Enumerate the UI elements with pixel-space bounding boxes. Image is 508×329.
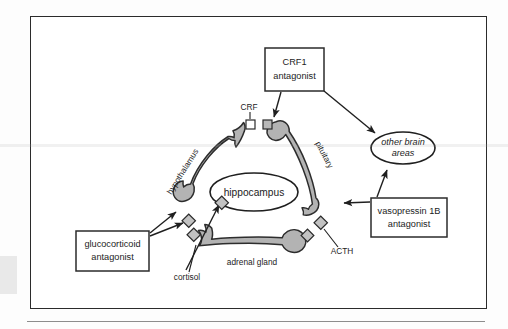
arrow-glucocorticoid-to-hypothalamus-upper xyxy=(150,212,176,233)
arrow-vasopressin-to-other-brain xyxy=(377,170,387,197)
callout-crf1-antagonist[interactable]: CRF1 antagonist xyxy=(265,48,324,91)
receptor-square-crf-right xyxy=(263,120,272,129)
hippocampus-label: hippocampus xyxy=(224,187,285,198)
arrow-vasopressin-to-pituitary xyxy=(344,202,370,203)
acth-label: ACTH xyxy=(331,246,354,256)
signal-crf: CRF xyxy=(240,102,257,119)
organ-label-pituitary: pituitary xyxy=(313,139,336,170)
crf1-antagonist-label-line1: CRF1 xyxy=(283,57,307,67)
glucocorticoid-antagonist-label-line1: glucocorticoid xyxy=(84,239,140,249)
crf1-antagonist-label-line2: antagonist xyxy=(273,71,316,81)
vasopressin-antagonist-label-line2: antagonist xyxy=(388,219,431,229)
acth-leader-line xyxy=(324,229,338,247)
node-other-brain-areas: other brain areas xyxy=(371,132,435,164)
page-canvas: hypothalamus pituitary adrenal gland hip… xyxy=(0,0,508,329)
arrow-crf1-to-pituitary xyxy=(274,92,281,117)
glucocorticoid-antagonist-label-line2: antagonist xyxy=(91,252,134,262)
callout-glucocorticoid-antagonist[interactable]: glucocorticoid antagonist xyxy=(76,231,149,271)
page-horizontal-rule xyxy=(27,321,485,322)
signal-acth: ACTH xyxy=(324,229,353,256)
receptor-diamond-hypothalamus-base xyxy=(182,214,195,227)
callout-vasopressin-1b-antagonist[interactable]: vasopressin 1B antagonist xyxy=(371,198,447,237)
receptor-diamond-acth xyxy=(314,216,327,229)
organ-adrenal-gland: adrenal gland xyxy=(198,225,305,267)
other-brain-areas-label-line1: other brain xyxy=(381,137,424,147)
crf-label: CRF xyxy=(240,102,257,112)
vasopressin-antagonist-label-line1: vasopressin 1B xyxy=(378,206,441,216)
cortisol-label: cortisol xyxy=(174,272,200,282)
other-brain-areas-label-line2: areas xyxy=(392,148,415,158)
arrow-crf1-to-other-brain xyxy=(324,91,375,133)
cortisol-leader-line xyxy=(189,245,196,272)
receptor-square-crf-left xyxy=(246,120,255,129)
hpa-axis-diagram: hypothalamus pituitary adrenal gland hip… xyxy=(0,0,508,329)
organ-label-adrenal-gland: adrenal gland xyxy=(227,257,278,267)
